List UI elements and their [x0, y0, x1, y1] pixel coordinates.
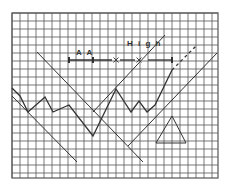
measure-bar	[69, 57, 172, 63]
label-high: H i g h	[127, 39, 162, 48]
chart-canvas: A A H i g h	[0, 0, 228, 190]
chart-grid	[12, 13, 218, 178]
grid-border	[12, 13, 218, 178]
projection-line	[172, 46, 196, 70]
triangle-pattern	[156, 116, 186, 143]
label-aa: A A	[76, 48, 94, 57]
